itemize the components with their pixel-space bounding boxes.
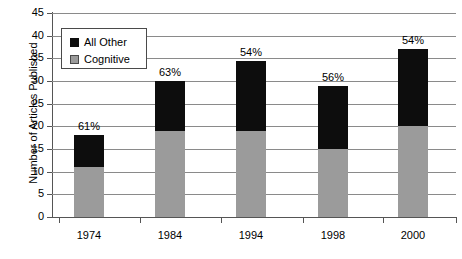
x-tick-label-1984: 1984: [140, 229, 200, 241]
bar-1998: [318, 86, 348, 217]
bar-percent-label: 54%: [383, 34, 443, 46]
x-tick-mark: [303, 218, 304, 223]
y-tick-label-wrap: 10: [0, 166, 44, 177]
x-tick-mark: [456, 218, 457, 223]
bar-segment-cognitive: [398, 126, 428, 217]
x-tick-mark: [140, 218, 141, 223]
x-tick-label-1974: 1974: [59, 229, 119, 241]
legend-label-all-other: All Other: [84, 36, 127, 48]
y-tick-label: 20: [14, 120, 44, 131]
y-tick-label: 25: [14, 98, 44, 109]
y-tick-label: 45: [14, 7, 44, 18]
y-tick-label: 10: [14, 166, 44, 177]
y-tick-label-wrap: 20: [0, 120, 44, 131]
chart-legend: All Other Cognitive: [61, 28, 147, 69]
bar-segment-all-other: [318, 86, 348, 149]
bar-segment-all-other: [74, 135, 104, 167]
y-tick-label-wrap: 30: [0, 75, 44, 86]
legend-item-cognitive: Cognitive: [70, 53, 130, 65]
bar-percent-label: 63%: [140, 66, 200, 78]
y-tick-label-wrap: 15: [0, 143, 44, 154]
gray-square-swatch-icon: [70, 55, 79, 64]
y-tick-label-wrap: 40: [0, 30, 44, 41]
bar-segment-all-other: [236, 61, 266, 131]
stacked-bar-chart: Number of Articles Published 05101520253…: [0, 0, 462, 259]
y-tick-label: 35: [14, 52, 44, 63]
y-tick-label: 15: [14, 143, 44, 154]
x-tick-mark: [383, 218, 384, 223]
x-tick-mark: [221, 218, 222, 223]
bar-percent-label: 61%: [59, 120, 119, 132]
y-tick-label-wrap: 5: [0, 188, 44, 199]
bar-percent-label: 56%: [303, 71, 363, 83]
bar-segment-cognitive: [74, 167, 104, 217]
bar-segment-cognitive: [236, 131, 266, 217]
x-tick-label-1994: 1994: [221, 229, 281, 241]
bar-2000: [398, 49, 428, 217]
black-square-swatch-icon: [70, 38, 79, 47]
x-tick-label-2000: 2000: [383, 229, 443, 241]
bar-1984: [155, 81, 185, 217]
x-tick-mark: [59, 218, 60, 223]
y-tick-label: 30: [14, 75, 44, 86]
x-axis-line: [52, 217, 457, 218]
y-tick-mark: [47, 217, 52, 218]
legend-item-all-other: All Other: [70, 36, 127, 48]
bar-1974: [74, 135, 104, 217]
x-tick-label-1998: 1998: [303, 229, 363, 241]
bar-percent-label: 54%: [221, 46, 281, 58]
y-tick-label-wrap: 35: [0, 52, 44, 63]
y-tick-label-wrap: 25: [0, 98, 44, 109]
legend-label-cognitive: Cognitive: [84, 53, 130, 65]
y-tick-label: 0: [14, 211, 44, 222]
gridline: [52, 13, 456, 14]
y-tick-label: 5: [14, 188, 44, 199]
y-tick-label: 40: [14, 30, 44, 41]
bar-segment-cognitive: [155, 131, 185, 217]
bar-segment-all-other: [155, 81, 185, 131]
y-tick-label-wrap: 0: [0, 211, 44, 222]
bar-1994: [236, 61, 266, 217]
bar-segment-all-other: [398, 49, 428, 126]
bar-segment-cognitive: [318, 149, 348, 217]
y-tick-label-wrap: 45: [0, 7, 44, 18]
